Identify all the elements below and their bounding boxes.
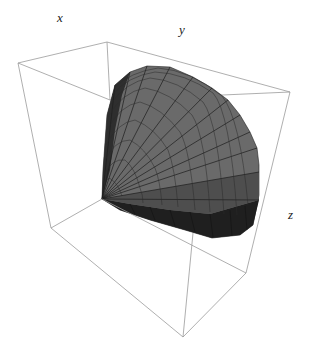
cone-surface: [102, 66, 259, 238]
3d-plot-canvas: [0, 0, 314, 351]
z-axis-label: z: [288, 207, 293, 223]
y-axis-label: y: [179, 22, 185, 38]
x-axis-label: x: [57, 10, 63, 26]
